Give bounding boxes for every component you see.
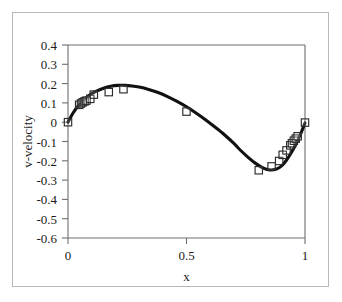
x-tick-marks bbox=[68, 238, 305, 244]
data-marker bbox=[255, 167, 262, 174]
y-axis-title: v-velocity bbox=[20, 115, 35, 168]
data-curve bbox=[68, 85, 305, 170]
y-tick-label: 0.1 bbox=[41, 96, 57, 111]
y-tick-label: -0.5 bbox=[36, 212, 57, 227]
data-marker bbox=[183, 108, 190, 115]
y-tick-label: -0.6 bbox=[36, 231, 57, 246]
data-marker bbox=[268, 163, 275, 170]
y-tick-label: -0.2 bbox=[36, 154, 57, 169]
y-tick-marks bbox=[62, 45, 68, 238]
data-markers bbox=[64, 86, 308, 174]
y-tick-label: 0.2 bbox=[41, 77, 57, 92]
y-tick-label: 0.4 bbox=[41, 38, 58, 53]
x-tick-labels: 0 0.5 1 bbox=[65, 248, 309, 263]
figure-root: 0.4 0.3 0.2 0.1 0 -0.1 -0.2 -0.3 -0.4 -0… bbox=[0, 0, 342, 302]
y-tick-label: -0.4 bbox=[36, 192, 57, 207]
data-marker bbox=[301, 119, 308, 126]
y-tick-label: -0.1 bbox=[36, 135, 57, 150]
y-tick-labels: 0.4 0.3 0.2 0.1 0 -0.1 -0.2 -0.3 -0.4 -0… bbox=[36, 38, 57, 246]
x-tick-label: 0 bbox=[65, 248, 72, 263]
axis-frame bbox=[68, 45, 305, 238]
data-marker bbox=[64, 119, 71, 126]
x-tick-label: 0.5 bbox=[178, 248, 194, 263]
chart-plot: 0.4 0.3 0.2 0.1 0 -0.1 -0.2 -0.3 -0.4 -0… bbox=[0, 0, 342, 302]
x-tick-label: 1 bbox=[302, 248, 309, 263]
data-marker bbox=[294, 133, 301, 140]
x-axis-title: x bbox=[183, 269, 190, 284]
y-tick-label: 0.3 bbox=[41, 57, 57, 72]
data-marker bbox=[90, 91, 97, 98]
y-tick-label: 0 bbox=[51, 115, 58, 130]
data-marker bbox=[105, 88, 112, 95]
data-marker bbox=[120, 86, 127, 93]
y-tick-label: -0.3 bbox=[36, 173, 57, 188]
